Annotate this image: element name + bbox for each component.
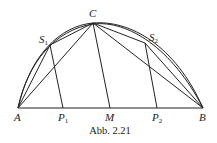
segment-AC <box>18 23 93 108</box>
label-P2: P2 <box>151 111 163 125</box>
segment-CB <box>93 23 203 108</box>
label-S1: S1 <box>39 33 49 47</box>
label-C: C <box>89 7 97 19</box>
label-A: A <box>13 111 21 123</box>
diagram: A B C M S1 S2 P1 P2 Abb. 2.21 <box>0 0 217 143</box>
segment-S1P1 <box>50 45 63 108</box>
label-M: M <box>104 111 115 123</box>
segment-S2B <box>145 43 203 108</box>
label-S2: S2 <box>149 31 159 45</box>
label-P1: P1 <box>57 111 69 125</box>
figure-caption: Abb. 2.21 <box>89 125 131 136</box>
segment-CM <box>93 23 110 108</box>
segment-S2P2 <box>145 43 157 108</box>
label-B: B <box>199 111 206 123</box>
segment-S1C <box>50 23 93 45</box>
